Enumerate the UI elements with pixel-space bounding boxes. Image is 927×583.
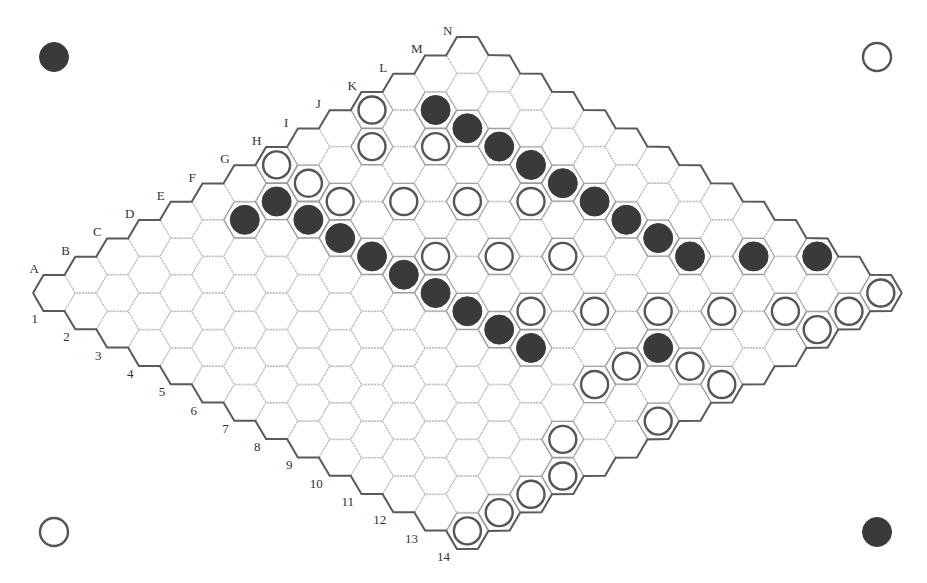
black-stone-M11 [739,242,768,271]
black-stone-L8 [612,205,641,234]
corner-marker-top-left-black-icon [40,43,69,72]
column-label-F: F [189,170,196,185]
black-stone-N12 [803,242,832,271]
black-stone-L4 [485,132,514,161]
white-stone-I13 [677,353,704,380]
black-stone-L6 [548,169,577,198]
white-stone-J2 [359,133,386,160]
white-stone-E13 [549,426,576,453]
column-label-J: J [316,96,321,111]
row-label-7: 7 [222,421,229,436]
white-stone-K6 [518,188,545,215]
black-stone-L3 [453,114,482,143]
white-stone-L14 [804,316,831,343]
corner-marker-bottom-left-white-icon [40,518,68,546]
white-stone-G14 [645,408,672,435]
corner-marker-top-right-white-icon [863,43,891,71]
white-stone-A14 [454,517,481,544]
column-label-N: N [443,23,453,38]
white-stone-K1 [359,97,386,124]
white-stone-B14 [486,499,513,526]
column-label-E: E [157,188,165,203]
black-stone-I12 [644,333,673,362]
black-stone-L10 [676,242,705,271]
black-stone-L2 [421,96,450,125]
black-stone-G10 [517,333,546,362]
row-label-1: 1 [32,311,39,326]
black-stone-G6 [389,260,418,289]
white-stone-H2 [295,170,322,197]
white-stone-M14 [836,298,863,325]
row-label-2: 2 [63,329,70,344]
black-stone-G9 [485,315,514,344]
column-label-K: K [348,78,358,93]
row-label-9: 9 [286,457,293,472]
white-stone-I14 [708,371,735,398]
white-stone-K12 [708,298,735,325]
white-stone-J11 [645,298,672,325]
row-label-6: 6 [191,403,198,418]
white-stone-C14 [518,481,545,508]
black-stone-G4 [326,224,355,253]
column-label-C: C [93,224,102,239]
hex-board: ABCDEFGHIJKLMN1234567891011121314 [0,0,927,583]
white-stone-I4 [390,188,417,215]
column-label-B: B [61,243,70,258]
white-stone-H9 [518,298,545,325]
black-stone-L9 [644,224,673,253]
white-stone-L13 [772,298,799,325]
row-label-4: 4 [127,366,134,381]
white-stone-K3 [422,133,449,160]
column-label-H: H [252,133,261,148]
column-label-D: D [125,206,134,221]
row-label-3: 3 [95,348,102,363]
white-stone-J5 [454,188,481,215]
row-label-10: 10 [310,476,323,491]
column-label-L: L [379,60,387,75]
white-stone-H3 [327,188,354,215]
row-label-5: 5 [159,384,166,399]
black-stone-L5 [517,150,546,179]
corner-marker-bottom-right-black-icon [863,518,892,547]
column-label-A: A [30,261,40,276]
white-stone-H12 [613,353,640,380]
white-stone-I7 [486,243,513,270]
white-stone-I10 [581,298,608,325]
column-label-I: I [284,115,288,130]
black-stone-G5 [358,242,387,271]
black-stone-G8 [453,297,482,326]
column-label-G: G [220,151,229,166]
white-stone-H1 [263,151,290,178]
black-stone-G3 [294,205,323,234]
row-label-13: 13 [405,531,418,546]
row-label-8: 8 [254,439,261,454]
row-label-14: 14 [437,549,451,564]
column-label-M: M [411,41,423,56]
black-stone-G2 [262,187,291,216]
black-stone-F2 [230,205,259,234]
white-stone-N14 [867,280,894,307]
white-stone-D14 [549,463,576,490]
black-stone-G7 [421,279,450,308]
black-stone-L7 [580,187,609,216]
white-stone-H6 [422,243,449,270]
row-label-12: 12 [373,512,386,527]
row-label-11: 11 [342,494,355,509]
white-stone-G12 [581,371,608,398]
white-stone-J8 [549,243,576,270]
